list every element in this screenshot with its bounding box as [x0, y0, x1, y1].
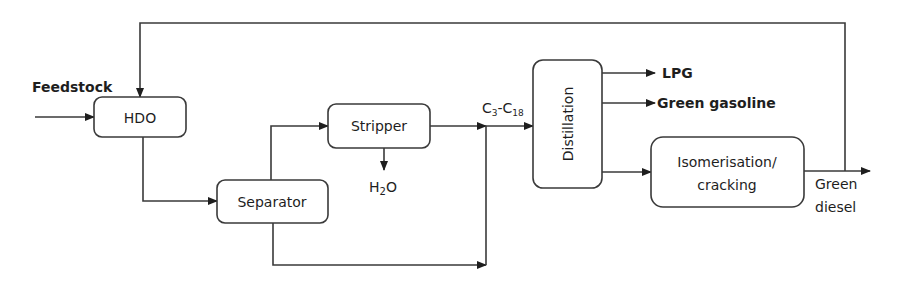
separator-bypass-arrow	[273, 223, 486, 265]
distillation-node: Distillation	[533, 60, 602, 188]
c3-c18-label: C3-C18	[482, 100, 524, 118]
hdo-to-separator-arrow	[143, 137, 217, 201]
hdo-label: HDO	[124, 110, 156, 126]
lpg-label: LPG	[662, 65, 693, 81]
hdo-node: HDO	[94, 97, 186, 137]
h2o-label: H2O	[369, 179, 397, 197]
stripper-label: Stripper	[351, 118, 407, 134]
separator-node: Separator	[217, 180, 328, 223]
green-gasoline-label: Green gasoline	[657, 95, 776, 111]
green-diesel-label-line1: Green	[815, 176, 857, 192]
stripper-node: Stripper	[328, 104, 430, 148]
separator-to-stripper-arrow	[271, 126, 328, 180]
green-diesel-label-line2: diesel	[815, 199, 856, 215]
isomerisation-node: Isomerisation/ cracking	[651, 137, 804, 207]
isomerisation-label-line2: cracking	[697, 177, 757, 193]
process-flow-diagram: Feedstock HDO Separator Stripper H2O C3-…	[0, 0, 908, 281]
isomerisation-label-line1: Isomerisation/	[677, 154, 777, 170]
distillation-label: Distillation	[560, 87, 576, 162]
feedstock-label: Feedstock	[32, 79, 113, 95]
separator-label: Separator	[237, 194, 306, 210]
